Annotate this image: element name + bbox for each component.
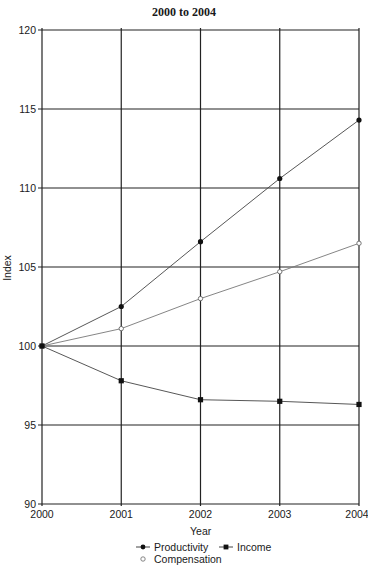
x-tick-label: 2002 [189,508,213,520]
data-point [356,402,361,407]
data-point [277,399,282,404]
data-point [277,176,282,181]
data-point [356,117,361,122]
data-point [39,343,44,348]
data-point [198,239,203,244]
y-tick-label: 110 [19,182,36,194]
y-tick-label: 120 [18,24,36,36]
data-point [357,241,361,245]
y-tick-label: 100 [18,340,36,352]
data-point [278,270,282,274]
data-point [119,304,124,309]
legend-item-compensation: Compensation [136,553,222,565]
y-tick-label: 115 [19,103,36,115]
filled-square-marker-icon [219,542,233,552]
data-point [198,397,203,402]
y-tick-label: 105 [18,261,36,273]
line-chart: 909510010511011512020002001200220032004 [0,0,368,572]
x-tick-label: 2004 [345,508,368,520]
data-point [119,378,124,383]
y-axis-label: Index [1,255,13,281]
x-tick-label: 2001 [110,508,134,520]
x-tick-label: 2003 [268,508,292,520]
y-tick-label: 95 [24,419,36,431]
legend-item-income: Income [219,541,271,553]
legend-item-productivity: Productivity [136,541,208,553]
x-tick-label: 2000 [30,508,54,520]
x-axis-label: Year [190,525,211,537]
filled-circle-marker-icon [136,542,150,552]
data-point [198,296,202,300]
data-point [119,326,123,330]
open-circle-marker-icon [136,554,150,564]
